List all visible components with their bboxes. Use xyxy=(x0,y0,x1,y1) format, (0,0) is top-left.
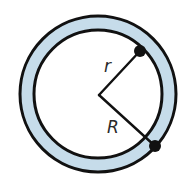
inner-radius-label: r xyxy=(104,56,112,76)
inner-radius-point xyxy=(134,45,146,57)
outer-radius-label: R xyxy=(107,117,119,137)
annulus-diagram: r R xyxy=(0,0,195,181)
outer-radius-point xyxy=(149,140,161,152)
